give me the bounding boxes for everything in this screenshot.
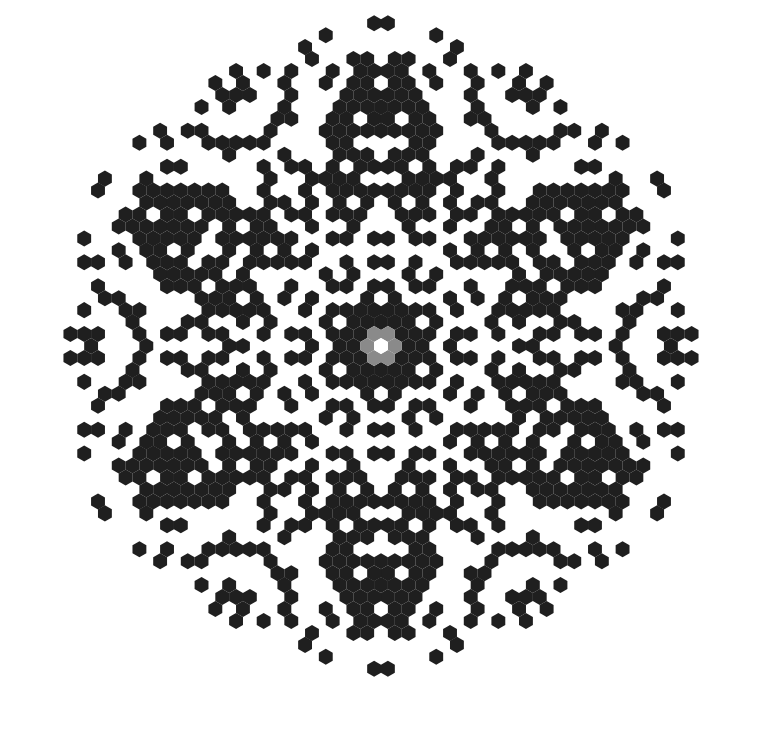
hex-cell-live <box>77 374 91 390</box>
hex-cell-live <box>422 446 436 462</box>
hex-cell-live <box>326 446 340 462</box>
hex-cell-live <box>588 159 602 175</box>
hex-cell-live <box>464 350 478 366</box>
hex-automaton-figure <box>0 0 774 731</box>
hex-cell-live <box>505 135 519 151</box>
hex-cell-live <box>588 350 602 366</box>
hex-cell-live <box>63 326 77 342</box>
hex-cell-live <box>554 577 568 593</box>
hex-cell-live <box>160 159 174 175</box>
hex-cell-live <box>367 422 381 438</box>
hex-cell-live <box>616 135 630 151</box>
hex-cell-live <box>381 254 395 270</box>
hex-cell-live <box>588 517 602 533</box>
hex-cell-live <box>326 230 340 246</box>
hex-cell-live <box>284 350 298 366</box>
hex-cell-live <box>464 326 478 342</box>
hex-cell-live <box>132 135 146 151</box>
hex-cell-live <box>685 326 699 342</box>
hex-cell-live <box>554 99 568 115</box>
hex-cell-live <box>77 254 91 270</box>
hex-cell-live <box>367 661 381 677</box>
hex-cell-live <box>367 446 381 462</box>
hex-cell-live <box>195 99 209 115</box>
hex-cell-live <box>381 15 395 31</box>
hex-cell-live <box>429 649 443 665</box>
hex-grid-canvas <box>0 0 774 731</box>
hex-cell-live <box>657 422 671 438</box>
hex-cell-live <box>174 159 188 175</box>
hex-cell-live <box>567 553 581 569</box>
hex-cell-live <box>616 541 630 557</box>
hex-cell-live <box>671 446 685 462</box>
hex-cell-live <box>257 63 271 79</box>
hex-cell-live <box>381 446 395 462</box>
hex-cell-live <box>491 613 505 629</box>
hex-cell-live <box>671 374 685 390</box>
hex-cell-live <box>160 517 174 533</box>
hex-cell-live <box>319 27 333 43</box>
hex-cell-live <box>381 422 395 438</box>
hex-cell-live <box>657 254 671 270</box>
hex-cell-live <box>367 15 381 31</box>
hex-cell-live <box>63 350 77 366</box>
hex-cell-live <box>367 230 381 246</box>
hex-cell-live <box>671 254 685 270</box>
hex-cell-live <box>181 553 195 569</box>
hex-cell-live <box>381 661 395 677</box>
hex-cell-live <box>381 230 395 246</box>
hex-cell-live <box>243 541 257 557</box>
hex-cell-live <box>422 230 436 246</box>
hex-cell-live <box>574 159 588 175</box>
hex-cell-live <box>429 27 443 43</box>
hex-cell-live <box>588 326 602 342</box>
hex-cell-live <box>77 230 91 246</box>
hex-cell-live <box>512 338 526 354</box>
hex-cell-live <box>160 350 174 366</box>
hex-cell-live <box>77 422 91 438</box>
hex-cell-live <box>319 649 333 665</box>
hex-cell-live <box>284 326 298 342</box>
hex-cell-live <box>671 302 685 318</box>
hex-cell-live <box>195 577 209 593</box>
hex-cell-live <box>257 613 271 629</box>
hex-cell-live <box>367 254 381 270</box>
hex-cell-live <box>671 230 685 246</box>
hex-cell-live <box>91 254 105 270</box>
hex-cell-live <box>574 517 588 533</box>
hex-cell-live <box>77 446 91 462</box>
hex-cell-live <box>160 326 174 342</box>
hex-cell-live <box>685 350 699 366</box>
hex-cell-live <box>132 541 146 557</box>
hex-cell-live <box>236 338 250 354</box>
hex-cell-live <box>174 517 188 533</box>
hex-cell-live <box>567 123 581 139</box>
hex-cell-live <box>671 422 685 438</box>
hex-cell-live <box>491 63 505 79</box>
hex-cell-live <box>181 123 195 139</box>
hex-cell-live <box>91 422 105 438</box>
hex-cell-live <box>77 302 91 318</box>
hex-cell-live <box>243 135 257 151</box>
hex-cell-live <box>505 541 519 557</box>
